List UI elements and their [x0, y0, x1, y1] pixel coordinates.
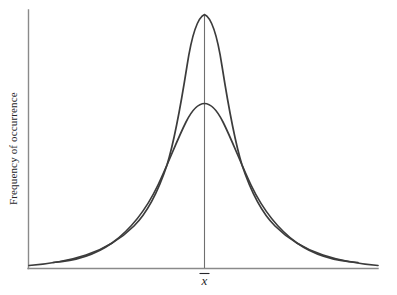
distribution-chart: Frequency of occurrence x — [0, 0, 397, 295]
narrow-distribution-curve — [29, 15, 378, 266]
x-axis-mean-label-group: x — [200, 273, 210, 288]
x-axis-mean-label: x — [201, 273, 208, 288]
broad-distribution-curve — [53, 104, 358, 263]
chart-canvas: Frequency of occurrence x — [0, 0, 397, 295]
y-axis-label: Frequency of occurrence — [7, 92, 19, 205]
